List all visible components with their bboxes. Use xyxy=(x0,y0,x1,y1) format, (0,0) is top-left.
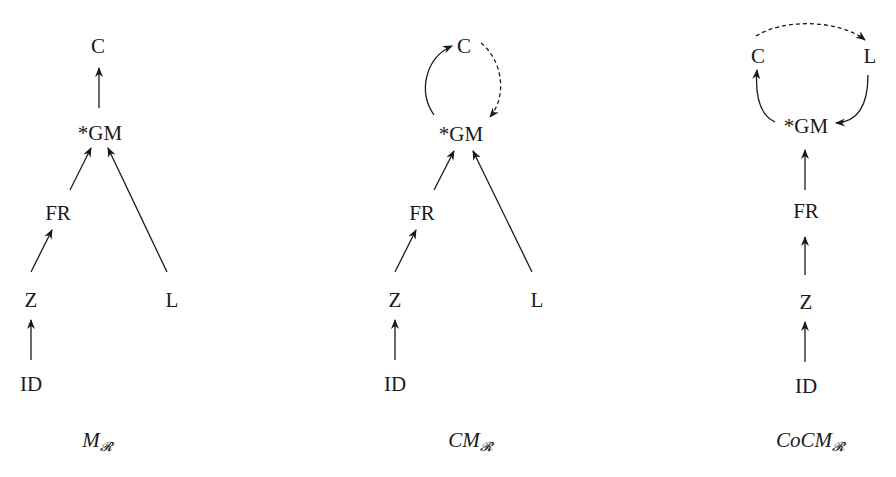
node-fr: FR xyxy=(45,203,71,224)
node-id: ID xyxy=(20,374,42,395)
node-c: C xyxy=(751,46,765,67)
edge-l-to-gm xyxy=(473,151,532,272)
edge-gm-to-c-curved xyxy=(426,46,452,115)
node-c: C xyxy=(457,36,471,57)
edge-l-to-gm xyxy=(108,148,167,272)
diagram-edges xyxy=(0,0,896,477)
caption-main: CoCM xyxy=(776,428,832,452)
caption-m-r: M𝓡 xyxy=(82,430,112,453)
node-gm: *GM xyxy=(784,116,828,137)
node-fr: FR xyxy=(409,203,435,224)
caption-cocm-r: CoCM𝓡 xyxy=(776,430,844,453)
node-z: Z xyxy=(800,292,813,313)
node-id: ID xyxy=(795,376,817,397)
node-c: C xyxy=(91,36,105,57)
node-fr: FR xyxy=(793,201,819,222)
node-l: L xyxy=(864,46,877,67)
edge-c-to-l-dashed xyxy=(756,24,865,40)
node-gm: *GM xyxy=(78,123,122,144)
node-z: Z xyxy=(25,290,38,311)
node-gm: *GM xyxy=(439,124,483,145)
caption-cm-r: CM𝓡 xyxy=(448,430,492,453)
caption-main: CM xyxy=(448,428,480,452)
edge-gm-to-c-curved xyxy=(757,70,775,122)
node-l: L xyxy=(166,290,179,311)
caption-main: M xyxy=(82,428,100,452)
caption-subscript: 𝓡 xyxy=(480,439,492,454)
edge-fr-to-gm xyxy=(70,148,91,190)
caption-subscript: 𝓡 xyxy=(832,439,844,454)
edge-z-to-fr xyxy=(395,230,416,272)
edge-c-to-gm-dashed xyxy=(481,43,501,117)
edge-l-to-gm-curved xyxy=(836,75,868,123)
caption-subscript: 𝓡 xyxy=(100,439,112,454)
edge-fr-to-gm xyxy=(434,151,454,190)
node-id: ID xyxy=(384,374,406,395)
node-z: Z xyxy=(389,290,402,311)
node-l: L xyxy=(531,290,544,311)
edge-z-to-fr xyxy=(31,230,52,272)
